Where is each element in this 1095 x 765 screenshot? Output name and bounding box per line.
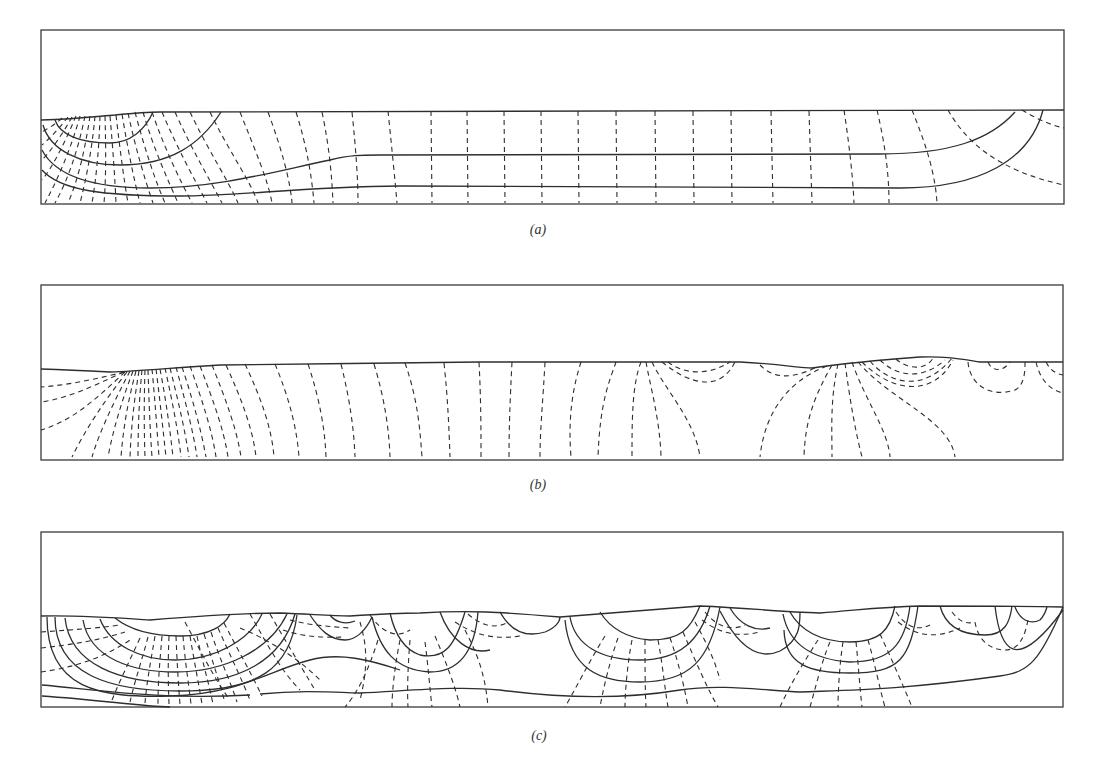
- panel-a-frame: [41, 30, 1064, 204]
- panel-c-caption: (c): [509, 728, 569, 744]
- panel-a-equipotentials: [42, 110, 1064, 203]
- figure: [0, 0, 1095, 765]
- panel-a: [41, 30, 1064, 204]
- panel-a-surface: [41, 110, 1064, 120]
- panel-c-frame: [41, 532, 1063, 707]
- panel-c-streamlines: [42, 606, 1063, 707]
- panel-b-equipotentials: [41, 358, 1063, 457]
- panel-b-caption: (b): [508, 477, 568, 493]
- panel-c: [41, 532, 1063, 707]
- panel-b-surface: [41, 357, 1063, 372]
- panel-a-streamlines: [42, 110, 1043, 196]
- panel-b: [41, 285, 1063, 460]
- panel-a-caption: (a): [508, 222, 568, 238]
- panel-b-frame: [41, 285, 1063, 460]
